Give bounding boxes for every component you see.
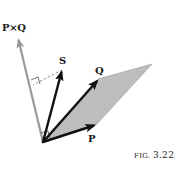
label-s: S: [59, 56, 66, 66]
caption-number: 3.22: [153, 150, 174, 160]
label-cross-product: P×Q: [2, 23, 26, 33]
vector-figure: P×Q S Q P FIG. 3.22: [0, 0, 180, 194]
label-q: Q: [95, 66, 104, 76]
cross-product-vector: [19, 40, 44, 142]
vector-diagram-svg: [0, 0, 180, 194]
origin-point: [42, 141, 45, 144]
caption-prefix: FIG.: [134, 152, 150, 160]
figure-caption: FIG. 3.22: [134, 150, 174, 160]
right-angle-marker-projection: [31, 77, 40, 84]
label-p: P: [88, 134, 96, 144]
